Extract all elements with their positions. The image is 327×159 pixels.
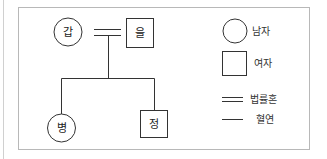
legend-blood-label: 혈연 (256, 113, 274, 125)
marriage-line (94, 30, 121, 36)
legend-marriage-label: 법률혼 (250, 93, 277, 105)
legend-circle-icon (223, 19, 247, 43)
family-tree-diagram: 갑 을 병 정 남자 여자 법률혼 혈연 (0, 0, 327, 159)
node-label-eul: 을 (135, 27, 145, 40)
legend-female-label: 여자 (254, 58, 272, 69)
node-byeong: 병 (48, 114, 76, 142)
node-jeong: 정 (141, 111, 168, 138)
node-label-jeong: 정 (149, 118, 159, 131)
node-gap: 갑 (54, 18, 82, 46)
node-label-byeong: 병 (57, 122, 67, 135)
legend-square-icon (223, 52, 247, 76)
node-eul: 을 (127, 19, 154, 48)
legend-male-label: 남자 (252, 26, 270, 37)
legend: 남자 여자 법률혼 혈연 (222, 19, 277, 125)
node-label-gap: 갑 (63, 26, 73, 39)
